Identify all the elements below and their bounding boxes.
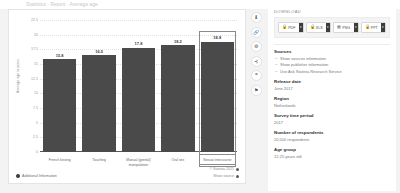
link-icon[interactable]: 🔗 — [251, 27, 262, 38]
side-panel: DOWNLOAD 🔒PDF▾🔒XLS▾▦PNG▾🔒PPT▾ Sources →S… — [268, 5, 396, 191]
panel-divider — [274, 44, 390, 45]
download-heading: DOWNLOAD — [274, 9, 390, 14]
download-button-main[interactable]: ▦PNG — [334, 23, 354, 32]
bar[interactable] — [201, 42, 234, 152]
meta-section: RegionNetherlands — [274, 96, 390, 108]
arrow-right-icon: → — [274, 69, 278, 73]
additional-information-label: Additional Information — [22, 174, 57, 178]
y-axis-tick-label: 2.5 — [33, 135, 38, 139]
lock-icon: 🔒 — [310, 25, 315, 29]
meta-title: Region — [274, 96, 390, 101]
download-pdf-button[interactable]: 🔒PDF▾ — [278, 22, 304, 33]
chart-action-rail: ⬇🔗⚙⊰❝⚑ — [249, 12, 263, 96]
bar-value-label: 16.5 — [95, 49, 103, 54]
meta-title: Number of respondents — [274, 130, 390, 135]
bar[interactable] — [122, 48, 155, 152]
copyright-dot-icon — [236, 168, 239, 171]
sources-section: Sources →Show sources information→Show p… — [274, 49, 390, 74]
y-axis-tick-label: 15 — [34, 62, 38, 66]
bar[interactable] — [161, 45, 194, 152]
source-link[interactable]: →Show sources information — [274, 56, 390, 61]
download-button-label: PNG — [342, 26, 350, 30]
y-axis-tick-label: 20 — [34, 33, 38, 37]
page-root: Statistics · Report · Average age Averag… — [0, 0, 400, 193]
download-xls-button[interactable]: 🔒XLS▾ — [306, 22, 332, 33]
copyright-text: © Statista 2021 — [209, 167, 239, 171]
bar-value-label: 18.8 — [213, 35, 221, 40]
show-source-link[interactable]: Show source — [213, 174, 239, 178]
meta-section: Survey time period2017 — [274, 113, 390, 125]
download-png-button[interactable]: ▦PNG▾ — [333, 22, 359, 33]
bar-value-label: 15.8 — [56, 53, 64, 58]
bar-value-label: 17.8 — [135, 41, 143, 46]
additional-information-link[interactable]: Additional Information — [16, 174, 57, 178]
chevron-down-icon[interactable]: ▾ — [354, 23, 358, 32]
settings-icon[interactable]: ⚙ — [251, 41, 262, 52]
meta-title: Age group — [274, 147, 390, 152]
bar[interactable] — [43, 59, 76, 152]
info-icon — [16, 174, 20, 178]
source-link[interactable]: →Use Ask Statista Research Service — [274, 69, 390, 74]
show-source-label: Show source — [213, 174, 234, 178]
lock-icon: 🔒 — [365, 25, 370, 29]
meta-value: Netherlands — [274, 103, 390, 108]
source-link-label: Show publisher information — [280, 62, 328, 67]
show-source-dot-icon — [236, 175, 239, 178]
image-icon: ▦ — [337, 25, 341, 29]
download-button-main[interactable]: 🔒PDF — [279, 23, 299, 32]
meta-value: 20,500 respondents — [274, 137, 390, 142]
download-button-label: PPT — [371, 26, 378, 30]
meta-value: 2017 — [274, 120, 390, 125]
bar-column[interactable]: 18.2 — [161, 20, 194, 152]
meta-title: Release date — [274, 79, 390, 84]
share-icon[interactable]: ⊰ — [251, 56, 262, 67]
meta-value: June 2017 — [274, 86, 390, 91]
meta-value: 12-25 years old — [274, 154, 390, 159]
y-axis-tick-label: 12.5 — [31, 77, 38, 81]
download-button-main[interactable]: 🔒XLS — [307, 23, 327, 32]
y-axis-tick-label: 17.5 — [31, 47, 38, 51]
download-icon[interactable]: ⬇ — [251, 12, 262, 23]
download-button-main[interactable]: 🔒PPT — [362, 23, 382, 32]
arrow-right-icon: → — [274, 56, 278, 60]
bar-value-label: 18.2 — [174, 39, 182, 44]
bar-column[interactable]: 16.5 — [82, 20, 115, 152]
lock-icon: 🔒 — [282, 25, 287, 29]
plot-area: Average age in years 22.52017.51512.5107… — [9, 14, 245, 183]
download-button-group: 🔒PDF▾🔒XLS▾▦PNG▾🔒PPT▾ — [274, 17, 390, 38]
download-button-label: PDF — [288, 26, 295, 30]
source-link[interactable]: →Show publisher information — [274, 62, 390, 67]
bar-column[interactable]: 18.8 — [201, 20, 234, 152]
chart-card: Average age in years 22.52017.51512.5107… — [8, 9, 246, 184]
meta-section: Release dateJune 2017 — [274, 79, 390, 91]
meta-title: Survey time period — [274, 113, 390, 118]
bar[interactable] — [82, 55, 115, 152]
y-axis-tick-label: 7.5 — [33, 106, 38, 110]
y-axis-title: Average age in years — [16, 48, 20, 104]
meta-section: Number of respondents20,500 respondents — [274, 130, 390, 142]
y-axis-ticks: 22.52017.51512.5107.552.50 — [21, 20, 39, 152]
y-axis-tick-label: 0 — [36, 150, 38, 154]
y-axis-tick-label: 5 — [36, 121, 38, 125]
chevron-down-icon[interactable]: ▾ — [299, 23, 303, 32]
chevron-down-icon[interactable]: ▾ — [381, 23, 385, 32]
download-button-label: XLS — [316, 26, 323, 30]
citation-icon[interactable]: ❝ — [251, 70, 262, 81]
bar-series: 15.816.517.818.218.8 — [40, 20, 237, 152]
chevron-down-icon[interactable]: ▾ — [326, 23, 330, 32]
y-axis-tick-label: 22.5 — [31, 18, 38, 22]
bookmark-icon[interactable]: ⚑ — [251, 85, 262, 96]
download-ppt-button[interactable]: 🔒PPT▾ — [361, 22, 387, 33]
copyright-label: © Statista 2021 — [209, 167, 234, 171]
bar-column[interactable]: 17.8 — [122, 20, 155, 152]
arrow-right-icon: → — [274, 62, 278, 66]
meta-section: Age group12-25 years old — [274, 147, 390, 159]
source-link-label: Use Ask Statista Research Service — [280, 69, 342, 74]
sources-title: Sources — [274, 49, 390, 54]
bar-column[interactable]: 15.8 — [43, 20, 76, 152]
y-axis-tick-label: 10 — [34, 91, 38, 95]
source-link-label: Show sources information — [280, 56, 326, 61]
chart-card-footer: Additional Information © Statista 2021 S… — [9, 159, 245, 181]
